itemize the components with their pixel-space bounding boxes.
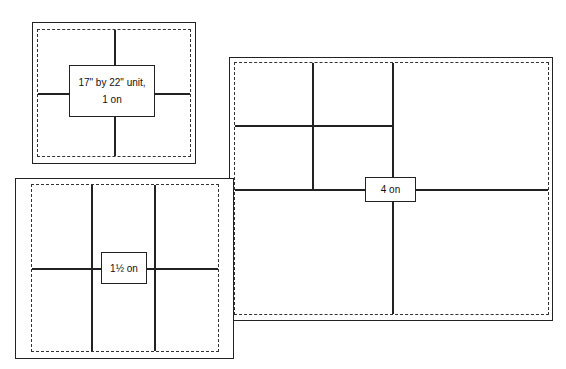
label-4-on: 4 on	[365, 177, 416, 202]
label-text-line1: 17" by 22" unit,	[78, 74, 145, 91]
label-text: 4 on	[381, 181, 400, 198]
label-text-line2: 1 on	[102, 91, 121, 108]
label-text: 1½ on	[110, 260, 138, 277]
fold-line	[235, 125, 392, 127]
label-1-on: 17" by 22" unit, 1 on	[69, 65, 155, 117]
label-1-half-on: 1½ on	[101, 252, 147, 284]
